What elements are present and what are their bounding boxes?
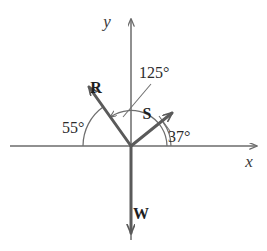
vector-label-R: R (90, 79, 102, 96)
vector-diagram-figure: y x R S W 55° 125° 37° (0, 0, 267, 251)
x-axis-label: x (244, 152, 253, 171)
angle-label-55: 55° (62, 119, 84, 136)
arc-55 (83, 107, 103, 146)
angle-label-37: 37° (168, 128, 190, 145)
vector-label-W: W (133, 205, 149, 222)
labels-group: y x R S W 55° 125° 37° (62, 12, 253, 222)
vector-label-S: S (143, 105, 152, 122)
angle-label-125: 125° (139, 64, 169, 81)
vector-S-line (131, 113, 172, 146)
diagram-canvas: y x R S W 55° 125° 37° (0, 0, 267, 251)
y-axis-label: y (101, 12, 111, 31)
